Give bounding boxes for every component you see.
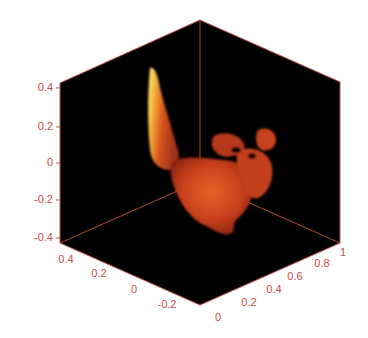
y-tick-label: 0.8	[314, 258, 329, 269]
z-axis-ticks	[56, 88, 60, 238]
y-tick-label: 0.6	[287, 271, 302, 282]
z-tick-label: -0.4	[34, 232, 53, 243]
x-tick-label: 0.4	[58, 254, 73, 265]
z-tick-label: -0.2	[34, 194, 53, 205]
x-tick-label: 0	[131, 284, 137, 295]
x-tick-label: 0.2	[91, 268, 106, 279]
plot-canvas	[0, 0, 368, 338]
z-tick-label: 0.4	[38, 82, 53, 93]
y-tick-label: 0.4	[266, 284, 281, 295]
z-tick-label: 0.2	[38, 121, 53, 132]
y-tick-label: 1	[340, 247, 346, 258]
x-tick-label: -0.2	[158, 299, 177, 310]
z-tick-label: 0	[47, 157, 53, 168]
y-tick-label: 0	[215, 312, 221, 323]
y-tick-label: 0.2	[241, 297, 256, 308]
volume-plot-figure: 0.4 0.2 0 -0.2 -0.4 0.4 0.2 0 -0.2 0 0.2…	[0, 0, 368, 338]
